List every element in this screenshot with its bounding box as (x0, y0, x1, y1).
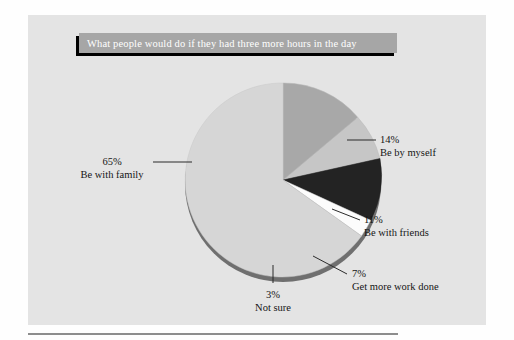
chart-page: What people would do if they had three m… (0, 0, 514, 340)
label-get-more-work-done-percent: 7% (352, 267, 439, 280)
label-be-with-family-percent: 65% (72, 155, 152, 168)
label-not-sure-percent: 3% (240, 288, 306, 301)
label-be-by-myself-name: Be by myself (380, 146, 436, 159)
label-be-with-friends: 11% Be with friends (364, 213, 429, 239)
label-be-with-family: 65% Be with family (72, 155, 152, 181)
label-get-more-work-done: 7% Get more work done (352, 267, 439, 293)
label-be-with-friends-percent: 11% (364, 213, 429, 226)
footer-rule (28, 333, 398, 335)
label-be-with-friends-name: Be with friends (364, 226, 429, 239)
label-be-with-family-name: Be with family (72, 168, 152, 181)
label-not-sure: 3% Not sure (240, 288, 306, 314)
label-get-more-work-done-name: Get more work done (352, 280, 439, 293)
label-not-sure-name: Not sure (240, 301, 306, 314)
label-be-by-myself: 14% Be by myself (380, 133, 436, 159)
label-be-by-myself-percent: 14% (380, 133, 436, 146)
